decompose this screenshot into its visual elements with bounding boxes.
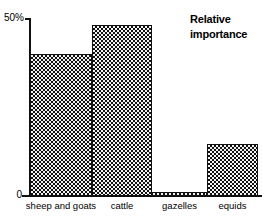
bar-equids (207, 144, 258, 196)
y-axis-tick-label-50: 50% (0, 12, 24, 23)
y-axis-tick-label-0: 0 (6, 189, 22, 200)
bar-sheep-and-goats (30, 54, 92, 196)
bar-chart: Relative importance 50% 0 sheep and goat… (0, 0, 270, 220)
bar-cattle (92, 25, 152, 196)
plot-area (30, 18, 262, 196)
x-axis-label-equids: equids (188, 200, 271, 212)
bar-gazelles (152, 192, 207, 196)
